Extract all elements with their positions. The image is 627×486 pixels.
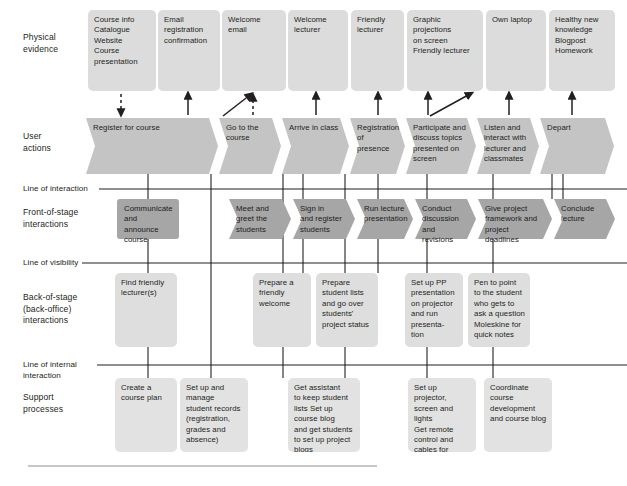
row-label-back-of-stage: Back-of-stage (back-office) interactions — [23, 292, 77, 327]
front-of-stage-step-label: Conduct discussion and revisions — [415, 199, 476, 239]
physical-evidence-card: Welcome lecturer — [288, 10, 348, 91]
support-process-card: Get assistant to keep student lists Set … — [288, 378, 360, 452]
front-of-stage-step: Sign in and register students — [293, 199, 355, 239]
front-of-stage-step-label: Meet and greet the students — [229, 199, 291, 239]
back-of-stage-card: Prepare a friendly welcome — [253, 273, 311, 347]
back-of-stage-card: Find friendly lecturer(s) — [115, 273, 177, 347]
physical-evidence-card: Welcome email — [222, 10, 286, 91]
user-action-step: Go to the course — [219, 118, 281, 174]
service-blueprint-diagram: Physical evidence User actions Front-of-… — [0, 0, 627, 486]
row-label-user-actions: User actions — [23, 131, 51, 154]
front-of-stage-step: Give project framework and project deadl… — [478, 199, 552, 239]
front-of-stage-step: Communicate and announce course — [117, 199, 179, 239]
support-process-card: Set up and manage student records (regis… — [180, 378, 248, 452]
user-action-step: Registration of presence — [350, 118, 405, 174]
support-process-card: Coordinate course development and course… — [484, 378, 552, 452]
physical-evidence-card: Healthy new knowledge Blogpost Homework — [549, 10, 615, 91]
user-action-step: Arrive in class — [282, 118, 349, 174]
front-of-stage-step-label: Sign in and register students — [293, 199, 355, 239]
user-action-step-label: Participate and discuss topics presented… — [406, 118, 476, 174]
support-process-card: Create a course plan — [115, 378, 177, 452]
user-action-step: Register for course — [86, 118, 218, 174]
user-action-step: Listen and interact with lecturer and cl… — [477, 118, 539, 174]
user-action-step-label: Register for course — [86, 118, 218, 174]
front-of-stage-step-label: Communicate and announce course — [117, 199, 179, 239]
row-label-front-of-stage: Front-of-stage interactions — [23, 207, 78, 230]
user-action-step-label: Arrive in class — [282, 118, 349, 174]
front-of-stage-step-label: Run lecture presentation — [357, 199, 413, 239]
label-line-of-internal-interaction: Line of internal interaction — [23, 360, 77, 381]
physical-evidence-card: Email registration confirmation — [158, 10, 220, 91]
physical-evidence-card: Friendly lecturer — [351, 10, 404, 91]
physical-evidence-card: Graphic projections on screen Friendly l… — [407, 10, 483, 91]
user-action-step: Depart — [540, 118, 614, 174]
front-of-stage-step: Conduct discussion and revisions — [415, 199, 476, 239]
back-of-stage-card: Prepare student lists and go over studen… — [316, 273, 378, 347]
physical-evidence-card: Own laptop — [486, 10, 546, 91]
label-line-of-interaction: Line of interaction — [23, 184, 88, 195]
evidence-arrows — [121, 94, 572, 116]
user-action-step-label: Go to the course — [219, 118, 281, 174]
label-line-of-visibility: Line of visibility — [23, 258, 78, 269]
physical-evidence-card: Course info Catalogue Website Course pre… — [88, 10, 156, 91]
front-of-stage-step: Run lecture presentation — [357, 199, 413, 239]
row-label-support-processes: Support processes — [23, 392, 63, 415]
back-of-stage-card: Pen to point to the student who gets to … — [468, 273, 530, 347]
front-of-stage-step-label: Conclude lecture — [554, 199, 615, 239]
user-action-step-label: Registration of presence — [350, 118, 405, 174]
front-of-stage-step: Conclude lecture — [554, 199, 615, 239]
user-action-step: Participate and discuss topics presented… — [406, 118, 476, 174]
user-action-step-label: Depart — [540, 118, 614, 174]
back-of-stage-card: Set up PP presentation on projector and … — [405, 273, 463, 347]
front-of-stage-step-label: Give project framework and project deadl… — [478, 199, 552, 239]
front-of-stage-step: Meet and greet the students — [229, 199, 291, 239]
row-label-physical-evidence: Physical evidence — [23, 32, 58, 55]
support-process-card: Set up projector, screen and lights Get … — [408, 378, 476, 452]
user-action-step-label: Listen and interact with lecturer and cl… — [477, 118, 539, 174]
